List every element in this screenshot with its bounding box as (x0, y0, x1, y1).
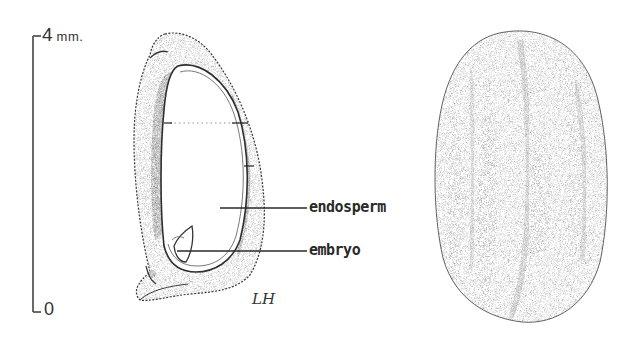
scale-unit: mm. (57, 29, 84, 44)
scale-bar (33, 36, 41, 312)
embryo-label: embryo (309, 241, 360, 259)
scale-max-value: 4 (42, 24, 53, 45)
endosperm-label: endosperm (309, 198, 386, 216)
seed-cross-section (134, 33, 264, 300)
artist-initials: LH (252, 290, 275, 308)
scale-bar-max-label: 4mm. (42, 24, 83, 46)
seed-exterior-view (435, 31, 607, 322)
seed-diagram-canvas (0, 0, 644, 350)
scale-bar-min-label: 0 (44, 299, 54, 320)
